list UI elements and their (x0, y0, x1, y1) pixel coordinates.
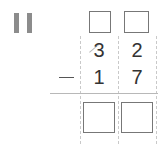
roman-numeral-bar (14, 13, 19, 33)
subtrahend-tens-digit: 1 (80, 66, 118, 88)
minus-sign (59, 77, 74, 78)
minuend-ones-digit: 2 (118, 39, 156, 61)
answer-box-tens[interactable] (83, 102, 115, 133)
minuend-tens-digit: 3 (80, 39, 118, 61)
subtrahend-ones-digit: 7 (118, 66, 156, 88)
column-guide-right (156, 36, 157, 144)
roman-numeral-bar (27, 13, 32, 33)
answer-box-ones[interactable] (121, 102, 153, 133)
regroup-box-ones[interactable] (124, 11, 149, 33)
answer-rule-line (50, 93, 158, 94)
regroup-box-tens[interactable] (89, 11, 111, 33)
